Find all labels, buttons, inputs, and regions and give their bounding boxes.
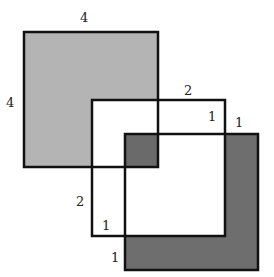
label-left-middle: 2 [76, 194, 84, 209]
label-inner-middle-right: 1 [208, 109, 216, 124]
label-top-large: 4 [80, 10, 88, 25]
triple-overlap-region [125, 134, 158, 167]
label-outer-small-right: 1 [235, 115, 243, 130]
label-left-large: 4 [6, 95, 14, 110]
label-outer-small-bottom: 1 [111, 250, 119, 265]
label-top-middle: 2 [184, 83, 192, 98]
label-inner-middle-bottom: 1 [102, 218, 110, 233]
overlapping-squares-diagram: 4 4 2 1 1 2 1 1 [0, 0, 274, 277]
